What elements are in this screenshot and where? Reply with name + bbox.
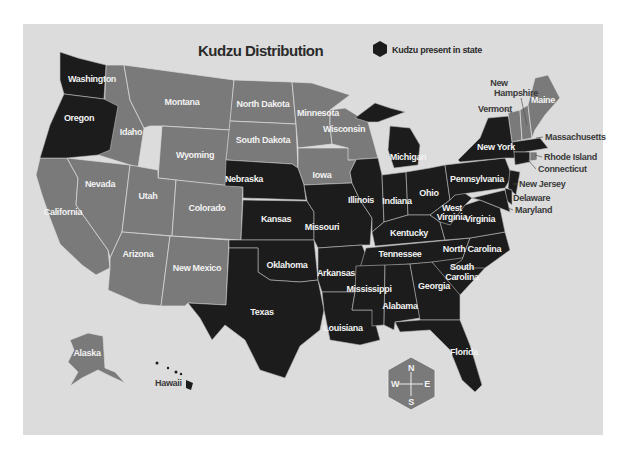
- label-oregon: Oregon: [64, 113, 94, 123]
- label-south-carolina-2: Carolina: [445, 272, 480, 282]
- map-title: Kudzu Distribution: [198, 42, 323, 59]
- label-nebraska: Nebraska: [225, 174, 264, 184]
- state-rhode-island: [530, 152, 537, 161]
- label-tennessee: Tennessee: [378, 249, 421, 259]
- compass-rose: N S E W: [388, 357, 435, 410]
- state-maine: [528, 75, 560, 138]
- label-ohio: Ohio: [419, 188, 439, 198]
- label-west-virginia-2: Virginia: [437, 212, 469, 222]
- label-georgia: Georgia: [418, 281, 451, 291]
- label-minnesota: Minnesota: [297, 108, 340, 118]
- label-vermont: Vermont: [478, 104, 512, 114]
- legend-label: Kudzu present in state: [392, 45, 482, 55]
- label-colorado: Colorado: [188, 203, 226, 213]
- label-california: California: [44, 207, 84, 217]
- label-new-hampshire-1: New: [490, 78, 509, 88]
- label-hawaii: Hawaii: [155, 378, 182, 388]
- label-texas: Texas: [250, 307, 274, 317]
- label-wisconsin: Wisconsin: [323, 124, 365, 134]
- label-south-carolina-1: South: [450, 262, 474, 272]
- label-indiana: Indiana: [382, 196, 413, 206]
- label-florida: Florida: [450, 347, 479, 357]
- label-nevada: Nevada: [85, 179, 117, 189]
- compass-east: E: [424, 379, 430, 389]
- state-arizona: [108, 232, 170, 306]
- us-map: Kudzu Distribution Kudzu present in stat…: [0, 0, 626, 457]
- label-pennsylvania: Pennsylvania: [450, 174, 505, 184]
- label-missouri: Missouri: [305, 222, 340, 232]
- label-michigan: Michigan: [390, 152, 427, 162]
- label-montana: Montana: [165, 97, 201, 107]
- label-wyoming: Wyoming: [176, 150, 214, 160]
- label-alabama: Alabama: [382, 301, 419, 311]
- label-maryland: Maryland: [515, 205, 552, 215]
- label-virginia: Virginia: [465, 214, 497, 224]
- label-alaska: Alaska: [73, 348, 102, 358]
- label-utah: Utah: [139, 191, 158, 201]
- label-louisiana: Louisiana: [323, 323, 364, 333]
- legend-hexagon-icon: [373, 41, 387, 57]
- label-new-york: New York: [477, 142, 516, 152]
- state-connecticut: [514, 152, 530, 165]
- label-rhode-island: Rhode Island: [544, 152, 597, 162]
- label-washington: Washington: [68, 74, 116, 84]
- label-new-hampshire-2: Hampshire: [494, 88, 538, 98]
- state-oregon: [40, 94, 118, 158]
- label-new-mexico: New Mexico: [173, 263, 222, 273]
- label-connecticut: Connecticut: [538, 164, 587, 174]
- label-kentucky: Kentucky: [390, 228, 428, 238]
- label-massachusetts: Massachusetts: [545, 132, 606, 142]
- label-arizona: Arizona: [123, 249, 155, 259]
- compass-west: W: [391, 379, 400, 389]
- label-delaware: Delaware: [513, 193, 550, 203]
- label-kansas: Kansas: [261, 214, 292, 224]
- compass-south: S: [408, 397, 414, 407]
- state-michigan-up: [355, 103, 405, 122]
- label-south-dakota: South Dakota: [236, 135, 292, 145]
- label-new-jersey: New Jersey: [519, 179, 566, 189]
- label-mississippi: Mississippi: [346, 284, 391, 294]
- label-north-dakota: North Dakota: [237, 99, 291, 109]
- label-idaho: Idaho: [120, 127, 143, 137]
- state-alaska: [68, 333, 125, 386]
- label-illinois: Illinois: [348, 195, 374, 205]
- label-north-carolina: North Carolina: [443, 244, 503, 254]
- label-arkansas: Arkansas: [317, 268, 355, 278]
- label-oklahoma: Oklahoma: [266, 260, 308, 270]
- legend: Kudzu present in state: [373, 41, 482, 57]
- compass-north: N: [408, 363, 414, 373]
- label-iowa: Iowa: [313, 170, 333, 180]
